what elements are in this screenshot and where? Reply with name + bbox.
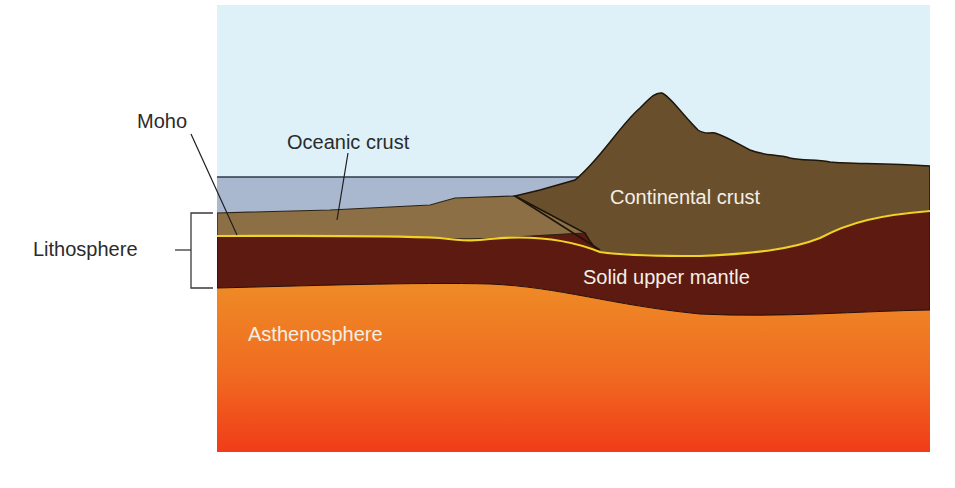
lithosphere-label: Lithosphere xyxy=(33,238,138,260)
moho-label: Moho xyxy=(137,110,187,132)
continental-crust-label: Continental crust xyxy=(610,186,761,208)
solid-upper-mantle-label: Solid upper mantle xyxy=(583,266,750,288)
earth-layers-diagram: Moho Oceanic crust Lithosphere Continent… xyxy=(0,0,955,488)
lithosphere-bracket xyxy=(175,213,213,288)
asthenosphere-label: Asthenosphere xyxy=(248,323,383,345)
oceanic-crust-label: Oceanic crust xyxy=(287,131,410,153)
